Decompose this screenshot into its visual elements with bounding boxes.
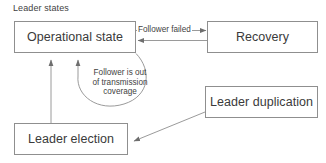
- node-recovery-label: Recovery: [236, 30, 289, 44]
- node-leader-duplication[interactable]: Leader duplication: [205, 86, 318, 118]
- self-loop-line-2: of transmission: [88, 78, 152, 88]
- edge-leader-duplication-to-leader-election: [134, 112, 205, 141]
- node-recovery[interactable]: Recovery: [207, 21, 318, 53]
- self-loop-line-3: coverage: [88, 87, 152, 97]
- node-leader-election[interactable]: Leader election: [14, 123, 128, 155]
- edge-label-self-loop: Follower is out of transmission coverage: [88, 68, 152, 97]
- node-operational-state-label: Operational state: [27, 30, 123, 44]
- node-leader-duplication-label: Leader duplication: [210, 95, 313, 109]
- diagram-title: Leader states: [13, 3, 69, 14]
- diagram-canvas: Leader states Operational state: [0, 0, 326, 163]
- edge-label-follower-failed: Follower failed: [137, 25, 192, 34]
- node-leader-election-label: Leader election: [28, 132, 114, 146]
- self-loop-line-1: Follower is out: [88, 68, 152, 78]
- node-operational-state[interactable]: Operational state: [14, 21, 136, 53]
